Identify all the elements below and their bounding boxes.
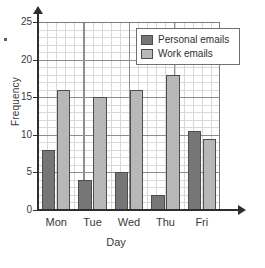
bar-thu-personal-emails xyxy=(151,195,165,210)
legend-label-work-emails: Work emails xyxy=(158,48,213,59)
legend-item-work-emails: Work emails xyxy=(141,47,235,60)
legend-label-personal-emails: Personal emails xyxy=(158,34,229,45)
y-tick-label-5: 5 xyxy=(0,167,32,177)
y-tick-mark-5 xyxy=(33,172,38,173)
x-axis-title: Day xyxy=(86,236,146,248)
bar-mon-personal-emails xyxy=(42,150,56,210)
y-axis-arrowhead-icon xyxy=(33,6,43,14)
bar-tue-work-emails xyxy=(93,97,107,210)
bar-fri-work-emails xyxy=(203,139,217,210)
y-tick-mark-15 xyxy=(33,97,38,98)
y-tick-label-25: 25 xyxy=(0,17,32,27)
bar-fri-personal-emails xyxy=(188,131,202,210)
y-tick-mark-20 xyxy=(33,60,38,61)
chart-legend: Personal emails Work emails xyxy=(136,28,240,65)
bar-thu-work-emails xyxy=(166,75,180,210)
legend-swatch-personal-emails xyxy=(141,35,153,45)
legend-item-personal-emails: Personal emails xyxy=(141,33,235,46)
x-axis-line xyxy=(37,209,240,211)
bar-wed-personal-emails xyxy=(115,172,129,210)
y-axis-title: Frequency xyxy=(10,62,21,142)
bar-tue-personal-emails xyxy=(78,180,92,210)
x-tick-label-fri: Fri xyxy=(179,216,225,228)
legend-swatch-work-emails xyxy=(141,49,153,59)
y-tick-mark-0 xyxy=(33,210,38,211)
y-tick-label-0: 0 xyxy=(0,205,32,215)
bar-wed-work-emails xyxy=(130,90,144,210)
bar-chart: 2520151050 MonTueWedThuFri Frequency Day… xyxy=(0,0,265,268)
y-tick-mark-10 xyxy=(33,135,38,136)
y-tick-mark-25 xyxy=(33,22,38,23)
y-axis-line xyxy=(37,12,39,211)
bar-mon-work-emails xyxy=(57,90,71,210)
x-axis-arrowhead-icon xyxy=(238,205,246,215)
